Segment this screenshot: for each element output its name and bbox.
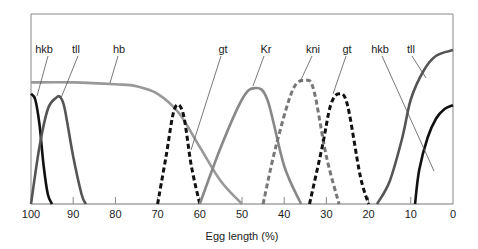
x-tick-label: 100 (22, 208, 40, 220)
plot-frame (31, 14, 453, 204)
x-tick-label: 30 (320, 208, 332, 220)
leader-line (110, 56, 118, 83)
leader-line (412, 56, 426, 78)
gene-label-kni: kni (306, 43, 320, 55)
gene-label-hb: hb (113, 43, 125, 55)
gene-label-tll: tll (407, 43, 415, 55)
x-tick-label: 20 (362, 208, 374, 220)
leader-line (37, 56, 48, 96)
curve-tll-posterior (377, 50, 453, 204)
leader-line (300, 56, 312, 82)
leader-line (61, 56, 78, 98)
curve-gt-anterior (158, 104, 200, 204)
x-tick-label: 40 (278, 208, 290, 220)
gene-label-hkb: hkb (371, 43, 389, 55)
leader-line (253, 56, 264, 86)
gene-label-gt: gt (342, 43, 351, 55)
curve-kni-central-posterior (263, 80, 339, 204)
gap-gene-expression-chart: 1009080706050403020100 hkbtllhbgtKrknigt… (0, 0, 478, 249)
curve-hkb-posterior (415, 105, 453, 204)
gene-label-gt: gt (218, 43, 227, 55)
leader-line (382, 56, 434, 171)
x-tick-label: 70 (151, 208, 163, 220)
x-tick-label: 0 (450, 208, 456, 220)
x-tick-label: 60 (194, 208, 206, 220)
leader-line (191, 56, 221, 150)
gene-labels: hkbtllhbgtKrknigthkbtll (35, 43, 415, 55)
gene-label-hkb: hkb (35, 43, 53, 55)
gene-label-tll: tll (72, 43, 80, 55)
leader-line (333, 56, 346, 94)
curve-tll-anterior (31, 96, 86, 204)
gene-label-kr: Kr (261, 43, 272, 55)
x-axis-label: Egg length (%) (206, 230, 279, 242)
x-tick-label: 10 (405, 208, 417, 220)
x-tick-label: 50 (236, 208, 248, 220)
x-tick-label: 80 (109, 208, 121, 220)
x-tick-label: 90 (67, 208, 79, 220)
